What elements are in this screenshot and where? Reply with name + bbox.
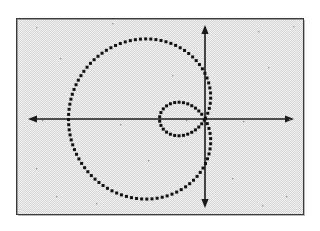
figure-root — [0, 0, 320, 231]
plot-frame — [16, 18, 304, 215]
